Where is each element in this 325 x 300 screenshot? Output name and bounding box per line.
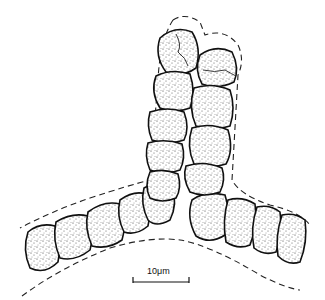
cell-filament-drawing <box>0 0 325 300</box>
right-branch-cells <box>190 193 306 263</box>
scale-bar <box>133 277 189 283</box>
figure-illustration: 10μm <box>0 0 325 300</box>
scale-bar-label: 10μm <box>147 266 170 276</box>
